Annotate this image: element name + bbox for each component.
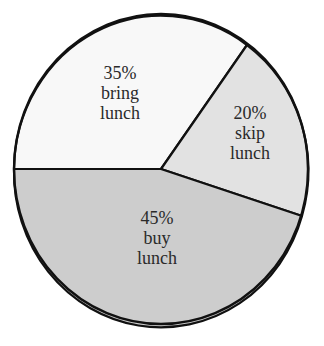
text-bring-lunch: lunch xyxy=(80,103,160,123)
text-skip: skip xyxy=(210,123,290,143)
text-buy-lunch: lunch xyxy=(117,248,197,268)
pie-chart xyxy=(0,0,324,346)
label-buy-lunch: 45% buy lunch xyxy=(117,208,197,268)
text-skip-lunch: lunch xyxy=(210,143,290,163)
text-bring: bring xyxy=(80,83,160,103)
percent-buy: 45% xyxy=(117,208,197,228)
label-bring-lunch: 35% bring lunch xyxy=(80,63,160,123)
percent-bring: 35% xyxy=(80,63,160,83)
percent-skip: 20% xyxy=(210,103,290,123)
text-buy: buy xyxy=(117,228,197,248)
label-skip-lunch: 20% skip lunch xyxy=(210,103,290,163)
